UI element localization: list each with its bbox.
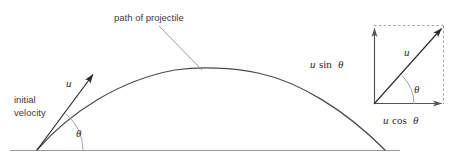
u-cos-theta-function: cos — [392, 114, 407, 126]
vertical-component-label: u sin θ — [310, 58, 344, 70]
initial-velocity-label-line2: velocity — [14, 107, 46, 118]
horizontal-component-label: u cos θ — [383, 114, 419, 126]
u-sin-theta-angle: θ — [338, 58, 344, 70]
projectile-motion-figure: path of projectile initial velocity u θ … — [0, 0, 470, 163]
u-cos-theta-angle: θ — [413, 114, 419, 126]
inset-angle-arc — [402, 76, 414, 104]
u-sin-theta-variable: u — [310, 58, 316, 70]
theta-label-inset: θ — [414, 83, 420, 95]
u-label-main: u — [66, 77, 72, 89]
u-sin-theta-function: sin — [319, 58, 332, 70]
path-of-projectile-label: path of projectile — [114, 12, 184, 23]
resultant-velocity-arrow — [374, 29, 442, 105]
theta-label-main: θ — [76, 127, 82, 139]
u-cos-theta-variable: u — [383, 114, 389, 126]
u-label-inset: u — [404, 46, 410, 58]
diagram-canvas: path of projectile initial velocity u θ … — [0, 0, 470, 163]
path-label-leader-line — [159, 26, 202, 70]
initial-velocity-label-line1: initial — [14, 94, 36, 105]
